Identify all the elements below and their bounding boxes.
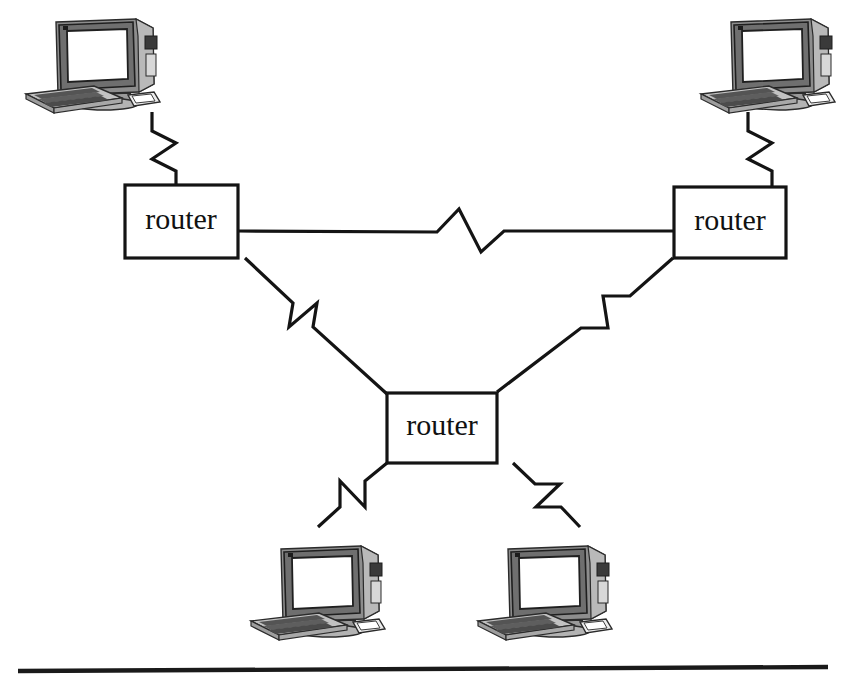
- router-left: router: [125, 185, 238, 258]
- router-center: router: [387, 393, 497, 463]
- link-router-left-to-router-center: [245, 258, 387, 394]
- workstation-bottom-left: [251, 546, 385, 640]
- router-right-label: router: [694, 203, 766, 236]
- workstation-top-left: [26, 19, 160, 113]
- router-layer: router router router: [125, 185, 786, 463]
- computer-icon: [701, 19, 835, 113]
- network-diagram-svg: router router router: [0, 0, 845, 684]
- router-center-label: router: [406, 408, 478, 441]
- baseline-rule: [18, 667, 828, 671]
- computer-icon: [478, 546, 612, 640]
- link-layer: [152, 112, 772, 527]
- link-top-right-pc-to-router-right: [748, 112, 772, 187]
- computer-icon: [251, 546, 385, 640]
- link-router-center-to-bottom-right-pc: [513, 463, 580, 527]
- router-right: router: [674, 187, 786, 258]
- workstation-layer: [26, 19, 835, 640]
- link-router-left-to-router-right: [238, 209, 674, 252]
- computer-icon: [26, 19, 160, 113]
- link-router-center-to-router-right: [497, 258, 673, 392]
- router-left-label: router: [145, 202, 217, 235]
- workstation-bottom-right: [478, 546, 612, 640]
- network-diagram-canvas: router router router: [0, 0, 845, 684]
- workstation-top-right: [701, 19, 835, 113]
- link-top-left-pc-to-router-left: [152, 112, 176, 185]
- link-router-center-to-bottom-left-pc: [318, 463, 387, 527]
